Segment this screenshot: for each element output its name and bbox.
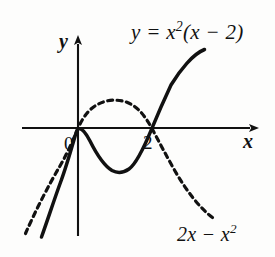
- parabola-curve-dashed: [26, 100, 215, 233]
- x-tick-label-2: 2: [143, 133, 153, 152]
- y-axis-label: y: [59, 31, 68, 51]
- axis-group: [22, 44, 250, 236]
- origin-label: 0: [64, 134, 74, 153]
- x-axis-label: x: [243, 131, 253, 151]
- graph-figure: y = x2(x − 2) 2x − x2 y x 0 2: [0, 0, 275, 257]
- cubic-equation-label: y = x2(x − 2): [131, 20, 244, 43]
- parabola-equation-label: 2x − x2: [177, 222, 237, 244]
